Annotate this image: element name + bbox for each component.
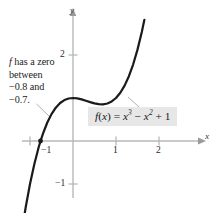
annotation-line-3: −0.8 and [9, 81, 44, 92]
x-tick-label-neg1: −1 [41, 144, 51, 155]
y-tick-label-neg1: −1 [55, 177, 65, 188]
graph-figure: f has a zero between −0.8 and −0.7. f(x)… [0, 0, 217, 213]
function-equals-sign: = [111, 110, 123, 122]
x-axis-label: x [205, 131, 209, 141]
function-operator-2: + [153, 110, 165, 122]
function-equation-label: f(x) = x3 − x2 + 1 [88, 107, 177, 126]
function-label-leader-line [128, 97, 139, 107]
zero-point-marker [38, 139, 43, 144]
function-operator-1: − [132, 110, 144, 122]
y-tick-label-2: 2 [60, 48, 65, 59]
annotation-line-4: −0.7. [9, 94, 30, 105]
annotation-line-2: between [9, 69, 43, 80]
x-tick-label-2: 2 [156, 144, 161, 155]
x-tick-label-1: 1 [113, 144, 118, 155]
y-axis-label: y [70, 5, 74, 15]
function-constant-term: 1 [165, 110, 171, 122]
annotation-line-1: has a zero [12, 56, 55, 67]
zero-annotation-text: f has a zero between −0.8 and −0.7. [9, 56, 81, 106]
